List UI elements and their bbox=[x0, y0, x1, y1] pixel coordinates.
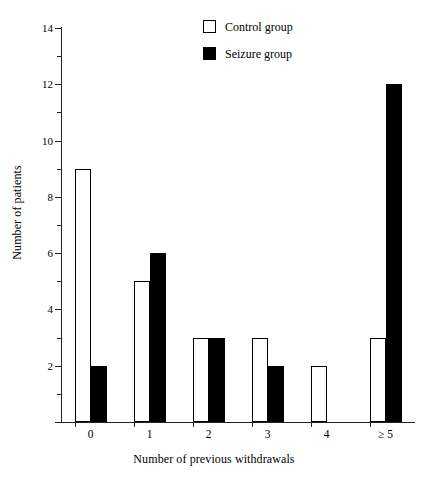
bar-seizure bbox=[268, 366, 284, 422]
y-tick-mark bbox=[57, 169, 61, 170]
bar-seizure bbox=[91, 366, 107, 422]
x-tick-mark bbox=[75, 422, 76, 427]
bar-seizure bbox=[150, 253, 166, 422]
bar-control bbox=[193, 338, 209, 422]
x-tick-label: 2 bbox=[206, 429, 212, 441]
y-tick-mark bbox=[57, 338, 61, 339]
y-tick-label: 4 bbox=[48, 304, 54, 315]
y-tick-mark bbox=[57, 394, 61, 395]
legend-swatch-seizure-icon bbox=[203, 47, 216, 60]
legend-item-seizure: Seizure group bbox=[203, 47, 293, 60]
chart-legend: Control group Seizure group bbox=[203, 20, 293, 74]
y-tick-label: 6 bbox=[48, 248, 54, 259]
y-axis-title: Number of patients bbox=[10, 133, 25, 293]
y-tick-label: 10 bbox=[42, 135, 53, 146]
y-tick-mark bbox=[57, 56, 61, 57]
y-tick-mark bbox=[55, 141, 61, 142]
x-tick-label: 3 bbox=[265, 429, 271, 441]
y-tick-mark bbox=[55, 253, 61, 254]
bar-control bbox=[311, 366, 327, 422]
x-tick-label: 0 bbox=[88, 429, 94, 441]
y-tick-mark bbox=[55, 197, 61, 198]
bar-seizure bbox=[209, 338, 225, 422]
x-axis-title: Number of previous withdrawals bbox=[0, 452, 428, 467]
y-tick-mark bbox=[55, 84, 61, 85]
y-tick-label: 14 bbox=[42, 23, 53, 34]
y-tick-label: 2 bbox=[48, 360, 54, 371]
bar-control bbox=[370, 338, 386, 422]
x-tick-mark bbox=[311, 422, 312, 427]
x-tick-label: 1 bbox=[147, 429, 153, 441]
bar-control bbox=[252, 338, 268, 422]
x-tick-mark bbox=[134, 422, 135, 427]
y-tick-mark bbox=[57, 112, 61, 113]
x-tick-mark bbox=[193, 422, 194, 427]
legend-label-seizure: Seizure group bbox=[225, 48, 292, 60]
y-tick-mark bbox=[55, 366, 61, 367]
x-tick-mark bbox=[370, 422, 371, 427]
legend-item-control: Control group bbox=[203, 20, 293, 33]
legend-swatch-control-icon bbox=[203, 20, 216, 33]
bar-seizure bbox=[386, 84, 402, 422]
x-axis-line bbox=[61, 422, 415, 423]
x-tick-label: ≥ 5 bbox=[378, 429, 393, 441]
bar-control bbox=[75, 169, 91, 422]
chart-figure: 2468101214 01234≥ 5 Number of patients N… bbox=[0, 0, 428, 482]
plot-area: 2468101214 01234≥ 5 bbox=[61, 28, 415, 422]
y-tick-mark bbox=[55, 422, 61, 423]
x-tick-label: 4 bbox=[324, 429, 330, 441]
bar-control bbox=[134, 281, 150, 422]
y-tick-mark bbox=[55, 309, 61, 310]
y-tick-label: 8 bbox=[48, 191, 54, 202]
y-tick-mark bbox=[57, 281, 61, 282]
y-tick-mark bbox=[55, 28, 61, 29]
y-tick-label: 12 bbox=[42, 79, 53, 90]
x-tick-mark bbox=[252, 422, 253, 427]
y-tick-mark bbox=[57, 225, 61, 226]
legend-label-control: Control group bbox=[225, 21, 293, 33]
